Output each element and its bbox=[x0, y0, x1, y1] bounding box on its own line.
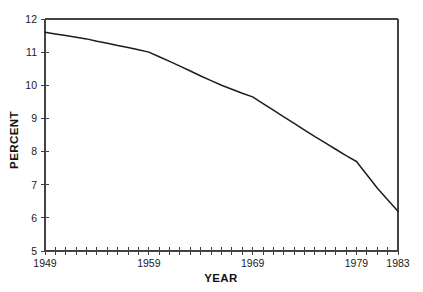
x-tick-label: 1979 bbox=[345, 257, 369, 269]
y-tick-label: 11 bbox=[26, 46, 37, 58]
y-tick-label: 9 bbox=[31, 112, 37, 124]
x-tick-label: 1969 bbox=[241, 257, 265, 269]
y-tick-label: 10 bbox=[25, 79, 37, 91]
x-tick-label: 1949 bbox=[33, 257, 57, 269]
y-axis-title: PERCENT bbox=[8, 111, 20, 169]
y-tick-label: 7 bbox=[31, 179, 37, 191]
y-tick-label: 12 bbox=[25, 13, 37, 25]
y-tick-label: 5 bbox=[31, 245, 37, 257]
y-tick-label: 8 bbox=[31, 145, 37, 157]
chart-page: 56789101112 19491959196919791983 PERCENT… bbox=[0, 0, 423, 292]
x-tick-label: 1983 bbox=[386, 257, 410, 269]
y-tick-label: 6 bbox=[31, 212, 37, 224]
line-chart: 56789101112 19491959196919791983 PERCENT… bbox=[0, 0, 423, 292]
x-axis-title: YEAR bbox=[204, 272, 238, 284]
x-tick-label: 1959 bbox=[137, 257, 161, 269]
